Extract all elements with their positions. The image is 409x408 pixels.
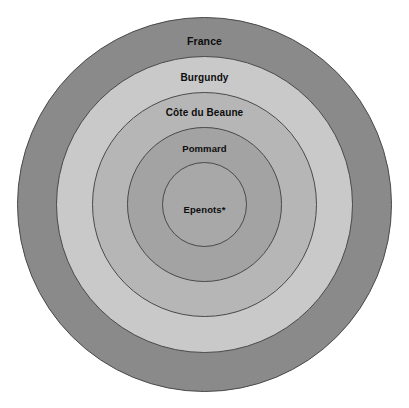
diagram-canvas	[0, 0, 409, 408]
circle-epenots[interactable]	[163, 163, 247, 247]
